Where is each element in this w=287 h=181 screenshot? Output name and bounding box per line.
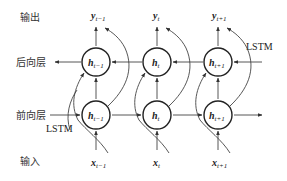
forward-layer-label: 前向层 xyxy=(16,109,46,121)
input-label: xt xyxy=(152,157,161,170)
column-connections xyxy=(68,27,251,153)
lstm-backward-label: LSTM xyxy=(246,41,273,52)
input-row-label: 输入 xyxy=(20,155,40,167)
output-label: yt+1 xyxy=(211,10,227,23)
bilstm-diagram: 输出 后向层 前向层 输入 LSTM LSTM xyxy=(0,0,287,181)
output-label: yt xyxy=(152,10,160,23)
input-label: xt−1 xyxy=(90,157,106,170)
output-row-label: 输出 xyxy=(20,11,40,23)
output-label: yt−1 xyxy=(90,10,106,23)
input-label: xt+1 xyxy=(211,157,227,170)
backward-layer-label: 后向层 xyxy=(16,56,46,68)
